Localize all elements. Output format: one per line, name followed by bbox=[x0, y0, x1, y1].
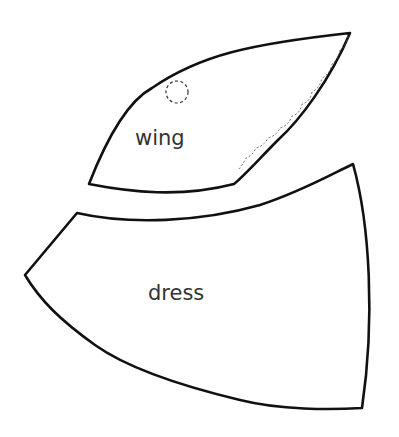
wing-outline bbox=[89, 33, 350, 192]
dress-label: dress bbox=[148, 281, 204, 305]
wing-piece: wing bbox=[89, 33, 350, 192]
wing-scalloped-stitch bbox=[238, 36, 348, 170]
dress-piece: dress bbox=[25, 164, 369, 409]
wing-label: wing bbox=[135, 126, 185, 150]
pattern-diagram: wing dress bbox=[0, 0, 399, 437]
dashed-circle-marker bbox=[166, 81, 188, 103]
